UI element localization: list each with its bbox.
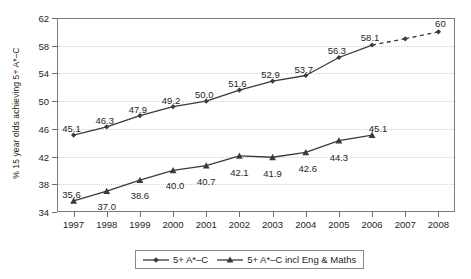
data-point-label: 42.1 [230,167,249,178]
gridline [58,184,454,185]
data-point-label: 47.9 [129,104,148,115]
data-point-label: 38.6 [131,190,150,201]
legend-diamond-icon [143,255,169,265]
x-tick-mark [74,212,75,217]
data-point-label: 45.1 [369,123,388,134]
data-point-label: 40.7 [197,176,216,187]
data-point-label: 42.6 [299,163,318,174]
x-tick-mark [239,212,240,217]
y-axis-label: % 15 year olds achieving 5+ A*–C [11,5,21,221]
y-tick-label: 34 [38,207,49,218]
data-point-label: 49.2 [162,95,181,106]
data-point-label: 58.1 [361,32,380,43]
x-tick-mark [273,212,274,217]
x-tick-mark [372,212,373,217]
x-tick-mark [405,212,406,217]
legend-item-1[interactable]: 5+ A*–C [143,254,208,265]
gridline [58,73,454,74]
data-point-label: 56.3 [328,45,347,56]
y-tick-mark [52,129,57,130]
legend-label: 5+ A*–C incl Eng & Maths [247,254,356,265]
y-tick-mark [52,46,57,47]
data-point-label: 45.1 [62,123,81,134]
data-point-label: 44.3 [330,152,349,163]
data-point-label: 40.0 [166,180,185,191]
x-tick-mark [140,212,141,217]
chart-container: % 15 year olds achieving 5+ A*–C 3438424… [0,0,471,279]
y-tick-mark [52,212,57,213]
x-tick-mark [206,212,207,217]
x-tick-mark [173,212,174,217]
data-point-label: 53.7 [295,64,314,75]
legend-label: 5+ A*–C [173,254,208,265]
y-tick-label: 62 [38,13,49,24]
y-tick-mark [52,18,57,19]
gridline [58,157,454,158]
x-tick-mark [306,212,307,217]
gridline [58,46,454,47]
y-tick-mark [52,157,57,158]
y-tick-label: 38 [38,179,49,190]
y-tick-label: 58 [38,40,49,51]
y-tick-mark [52,73,57,74]
gridline [58,129,454,130]
y-tick-label: 42 [38,151,49,162]
data-point-label: 46.3 [96,115,115,126]
y-tick-label: 54 [38,68,49,79]
x-tick-mark [339,212,340,217]
data-point-label: 50.0 [195,89,214,100]
y-tick-label: 46 [38,123,49,134]
plot-area [57,18,455,212]
legend-item-2[interactable]: 5+ A*–C incl Eng & Maths [217,254,356,265]
gridline [58,101,454,102]
data-point-label: 35.6 [62,189,81,200]
legend-triangle-icon [217,255,243,265]
y-tick-label: 50 [38,96,49,107]
y-tick-mark [52,101,57,102]
x-tick-mark [438,212,439,217]
data-point-label: 60 [435,18,446,29]
chart-legend: 5+ A*–C5+ A*–C incl Eng & Maths [135,250,364,269]
data-point-label: 41.9 [263,168,282,179]
x-tick-label: 2008 [415,219,461,230]
data-point-label: 52.9 [261,69,280,80]
x-tick-mark [107,212,108,217]
data-point-label: 37.0 [98,201,117,212]
y-tick-mark [52,184,57,185]
data-point-label: 51.6 [228,78,247,89]
